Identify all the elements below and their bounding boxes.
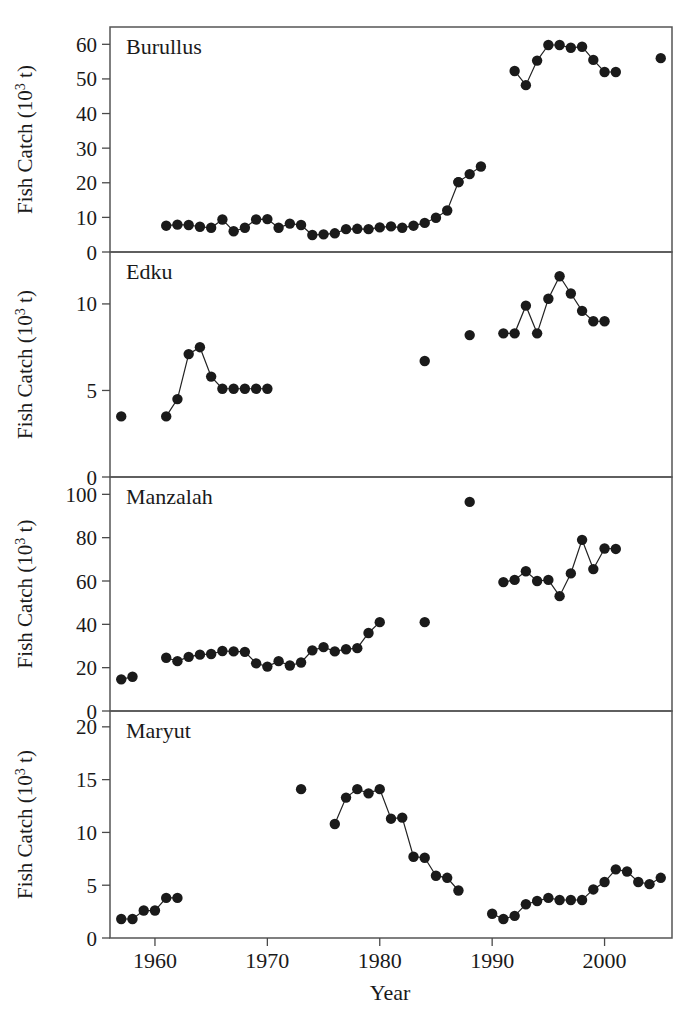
- data-point: [656, 873, 666, 883]
- data-point: [599, 316, 609, 326]
- data-point: [532, 896, 542, 906]
- data-point: [521, 80, 531, 90]
- data-point: [217, 214, 227, 224]
- data-point: [464, 169, 474, 179]
- figure-svg: 0102030405060BurullusFish Catch (103 t)0…: [0, 0, 690, 1023]
- y-tick-label: 60: [76, 33, 97, 57]
- data-point: [228, 646, 238, 656]
- data-point: [577, 306, 587, 316]
- data-point: [228, 226, 238, 236]
- data-point: [442, 205, 452, 215]
- data-point: [509, 66, 519, 76]
- data-point: [262, 384, 272, 394]
- data-point: [599, 543, 609, 553]
- data-point: [554, 591, 564, 601]
- data-point: [150, 905, 160, 915]
- x-axis-label: Year: [370, 980, 411, 1005]
- data-point: [554, 271, 564, 281]
- data-point: [509, 911, 519, 921]
- data-point: [487, 909, 497, 919]
- y-tick-label: 5: [87, 379, 98, 403]
- data-point: [318, 642, 328, 652]
- data-point: [172, 893, 182, 903]
- data-point: [262, 661, 272, 671]
- data-point: [386, 221, 396, 231]
- y-axis-label: Fish Catch (103 t): [13, 290, 37, 439]
- y-tick-label: 60: [76, 570, 97, 594]
- data-point: [408, 852, 418, 862]
- data-point: [195, 649, 205, 659]
- data-point: [577, 895, 587, 905]
- y-tick-label: 100: [66, 483, 98, 507]
- data-point: [532, 55, 542, 65]
- data-point: [251, 214, 261, 224]
- data-point: [183, 652, 193, 662]
- y-tick-label: 50: [76, 67, 97, 91]
- panel-title-burullus: Burullus: [126, 34, 202, 59]
- data-point: [633, 877, 643, 887]
- data-point: [285, 660, 295, 670]
- data-point: [262, 214, 272, 224]
- data-point: [352, 784, 362, 794]
- data-point: [116, 674, 126, 684]
- data-point: [296, 784, 306, 794]
- data-point: [307, 230, 317, 240]
- data-point: [341, 792, 351, 802]
- data-point: [341, 224, 351, 234]
- data-point: [195, 342, 205, 352]
- plot-frame: [110, 477, 672, 711]
- data-point: [521, 300, 531, 310]
- y-tick-label: 0: [87, 927, 98, 951]
- data-point: [363, 788, 373, 798]
- data-point: [453, 885, 463, 895]
- data-point: [521, 899, 531, 909]
- data-point: [464, 330, 474, 340]
- data-point: [139, 905, 149, 915]
- y-tick-label: 15: [76, 768, 97, 792]
- data-point: [543, 294, 553, 304]
- data-point: [386, 813, 396, 823]
- panel-burullus: 0102030405060BurullusFish Catch (103 t): [13, 27, 672, 265]
- series-line: [515, 45, 616, 85]
- data-point: [420, 218, 430, 228]
- y-tick-label: 40: [76, 613, 97, 637]
- data-point: [183, 349, 193, 359]
- y-tick-label: 20: [76, 715, 97, 739]
- y-tick-label: 0: [87, 241, 98, 265]
- panel-title-maryut: Maryut: [126, 718, 191, 743]
- data-point: [217, 646, 227, 656]
- panel-maryut: 0510152019601970198019902000MaryutFish C…: [13, 711, 672, 973]
- data-point: [206, 649, 216, 659]
- data-point: [588, 564, 598, 574]
- data-point: [566, 43, 576, 53]
- data-point: [330, 819, 340, 829]
- data-point: [240, 384, 250, 394]
- data-point: [420, 617, 430, 627]
- data-point: [611, 864, 621, 874]
- panel-title-manzalah: Manzalah: [126, 484, 213, 509]
- y-tick-label: 30: [76, 137, 97, 161]
- data-point: [172, 219, 182, 229]
- data-point: [543, 40, 553, 50]
- y-axis-label: Fish Catch (103 t): [13, 750, 37, 899]
- data-point: [240, 647, 250, 657]
- data-point: [318, 229, 328, 239]
- x-tick-label: 1960: [133, 948, 177, 973]
- plot-frame: [110, 252, 672, 477]
- data-point: [330, 646, 340, 656]
- data-point: [285, 218, 295, 228]
- y-tick-label: 10: [76, 206, 97, 230]
- data-point: [566, 568, 576, 578]
- data-point: [543, 575, 553, 585]
- data-point: [206, 371, 216, 381]
- data-point: [397, 812, 407, 822]
- data-point: [240, 223, 250, 233]
- data-point: [307, 645, 317, 655]
- plot-frame: [110, 27, 672, 252]
- data-point: [498, 577, 508, 587]
- data-point: [599, 67, 609, 77]
- x-tick-label: 1980: [358, 948, 402, 973]
- data-point: [588, 316, 598, 326]
- data-point: [195, 222, 205, 232]
- data-point: [172, 394, 182, 404]
